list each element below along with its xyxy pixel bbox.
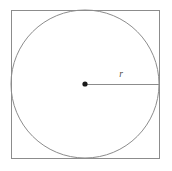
radius-label: r xyxy=(119,69,123,79)
geometry-figure: r xyxy=(0,0,172,171)
center-point-dot xyxy=(82,81,87,86)
figure-canvas: r xyxy=(0,0,172,171)
